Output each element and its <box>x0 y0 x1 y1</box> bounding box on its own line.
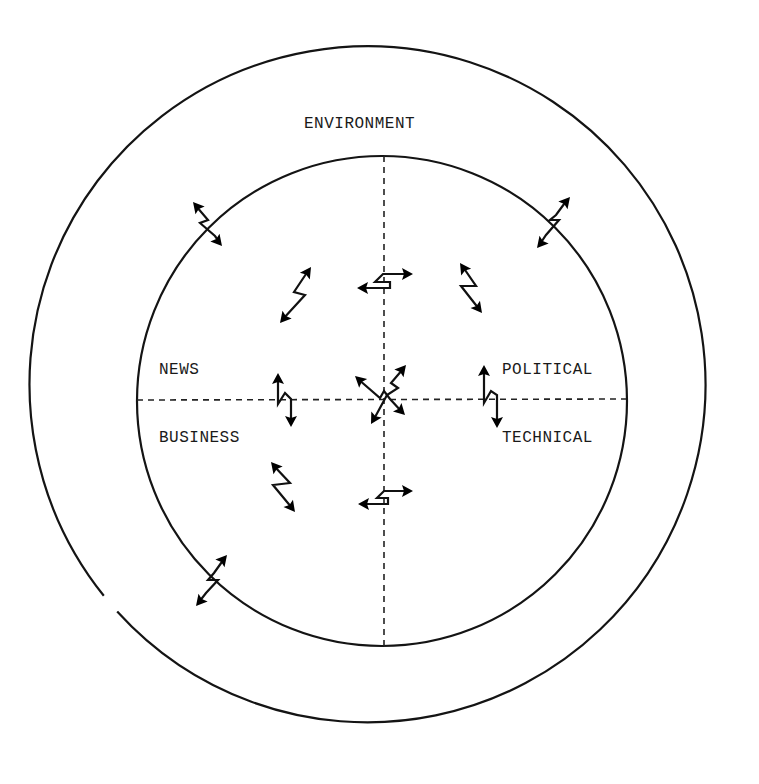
crossed-zigzag-arrows-icon <box>351 361 411 427</box>
inner-organization-circle <box>137 156 627 646</box>
zigzag-double-arrow-icon <box>191 551 231 610</box>
zigzag-double-arrow-icon <box>358 485 413 510</box>
environment-interaction-diagram: ENVIRONMENT NEWS POLITICAL BUSINESS TECH… <box>0 0 759 784</box>
zigzag-double-arrow-icon <box>266 458 299 516</box>
zigzag-double-arrow-icon <box>357 268 413 294</box>
technical-label: TECHNICAL <box>502 429 593 447</box>
zigzag-double-arrow-icon <box>275 264 316 327</box>
news-label: NEWS <box>159 361 199 379</box>
environment-label: ENVIRONMENT <box>304 115 415 133</box>
political-label: POLITICAL <box>502 361 593 379</box>
business-label: BUSINESS <box>159 429 240 447</box>
horizontal-axis <box>137 399 626 400</box>
outer-environment-circle <box>29 46 705 722</box>
zigzag-double-arrow-icon <box>455 260 487 317</box>
zigzag-double-arrow-icon <box>478 365 503 428</box>
